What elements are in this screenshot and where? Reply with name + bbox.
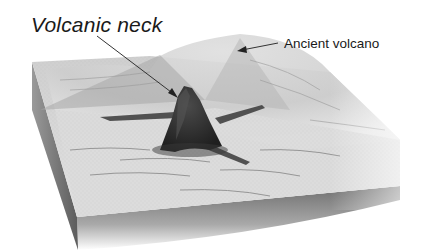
volcanic-neck-label: Volcanic neck [31,14,162,35]
block-diagram: Volcanic neck Ancient volcano [0,0,430,252]
ancient-volcano-label: Ancient volcano [284,37,379,51]
